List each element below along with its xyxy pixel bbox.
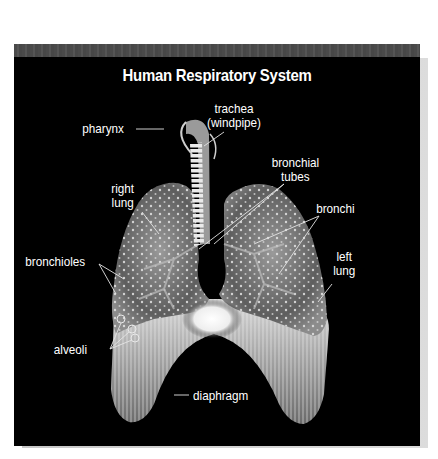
label-alveoli: alveoli (54, 343, 87, 357)
label-pharynx: pharynx (82, 122, 124, 136)
label-trachea: trachea (windpipe) (207, 102, 261, 130)
label-bronchial-tubes: bronchial tubes (272, 156, 319, 184)
label-trachea-line1: trachea (207, 102, 261, 116)
label-right-lung-line1: right (111, 182, 134, 196)
label-left-lung-line2: lung (333, 264, 355, 278)
label-right-lung-line2: lung (111, 196, 134, 210)
heart-glow (182, 299, 242, 339)
label-bronchial-tubes-line2: tubes (272, 170, 319, 184)
label-bronchial-tubes-line1: bronchial (272, 156, 319, 170)
label-bronchi: bronchi (316, 202, 354, 216)
label-trachea-line2: (windpipe) (207, 116, 261, 130)
diagram-panel: Human Respiratory System (14, 44, 420, 446)
label-left-lung-line1: left (333, 250, 355, 264)
label-left-lung: left lung (333, 250, 355, 278)
label-diaphragm: diaphragm (193, 389, 248, 403)
label-bronchioles: bronchioles (25, 255, 85, 269)
label-right-lung: right lung (111, 182, 134, 210)
